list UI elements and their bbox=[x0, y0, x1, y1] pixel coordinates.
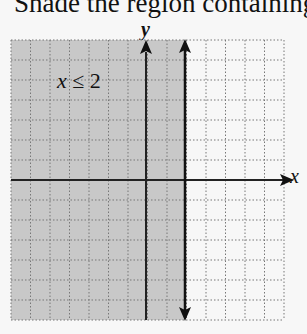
inequality-var: x bbox=[57, 68, 67, 93]
inequality-label: x ≤ 2 bbox=[57, 68, 101, 94]
coordinate-plane bbox=[0, 0, 307, 334]
inequality-rest: ≤ 2 bbox=[67, 68, 101, 93]
